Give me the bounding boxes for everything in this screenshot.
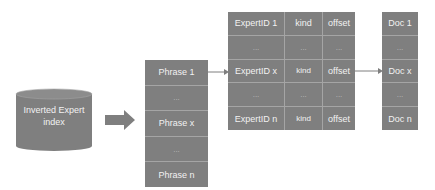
doc-list: Doc 1 ... Doc x ... Doc n	[382, 12, 418, 130]
offset-cell: offset	[323, 107, 355, 130]
expert-id-cell: ...	[228, 83, 285, 106]
expert-id-cell: ExpertID x	[228, 60, 285, 83]
expert-id-cell: ExpertID n	[228, 107, 285, 130]
index-label-line1: Inverted Expert	[16, 104, 92, 116]
index-label-line2: index	[16, 116, 92, 128]
phrase-item: ...	[145, 137, 208, 163]
phrase-item: ...	[145, 86, 208, 112]
offset-cell: ...	[323, 36, 355, 59]
expert-table: ExpertID 1 kind offset ... ... ... Exper…	[228, 12, 355, 130]
expert-row: ExpertID n kind offset	[228, 107, 355, 130]
expert-row: ... ... ...	[228, 83, 355, 107]
arrow-right-icon	[355, 68, 383, 74]
doc-item: Doc 1	[382, 12, 418, 36]
expert-row: ExpertID 1 kind offset	[228, 12, 355, 36]
expert-row: ... ... ...	[228, 36, 355, 60]
index-label: Inverted Expert index	[16, 104, 92, 128]
kind-cell: kind	[285, 60, 323, 83]
offset-cell: offset	[323, 12, 355, 35]
kind-cell: ...	[285, 83, 323, 106]
expert-id-cell: ...	[228, 36, 285, 59]
expert-row: ExpertID x kind offset	[228, 60, 355, 84]
doc-item: ...	[382, 36, 418, 60]
arrow-right-icon	[208, 69, 229, 75]
block-arrow-icon	[105, 110, 135, 130]
offset-cell: offset	[323, 60, 355, 83]
kind-cell: kind	[285, 12, 323, 35]
doc-item: Doc n	[382, 107, 418, 130]
doc-item: Doc x	[382, 60, 418, 84]
phrase-item: Phrase x	[145, 111, 208, 137]
expert-id-cell: ExpertID 1	[228, 12, 285, 35]
offset-cell: ...	[323, 83, 355, 106]
phrase-list: Phrase 1 ... Phrase x ... Phrase n	[145, 60, 208, 187]
connectors-layer	[0, 0, 435, 190]
kind-cell: kind	[285, 107, 323, 130]
kind-cell: ...	[285, 36, 323, 59]
phrase-item: Phrase n	[145, 162, 208, 187]
phrase-item: Phrase 1	[145, 60, 208, 86]
doc-item: ...	[382, 83, 418, 107]
